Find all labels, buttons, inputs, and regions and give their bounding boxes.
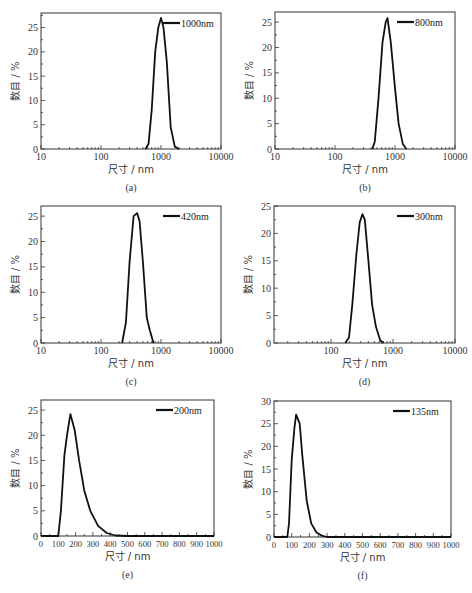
x-tick-label: 900 <box>190 539 203 549</box>
panel-caption: (c) <box>125 376 136 388</box>
x-tick-label: 100 <box>52 539 65 549</box>
x-tick-label: 500 <box>121 539 134 549</box>
y-tick-label: 5 <box>33 119 38 130</box>
x-axis-label: 尺寸 / nm <box>105 550 151 562</box>
data-line-300nm <box>345 214 383 343</box>
x-axis-label: 尺寸 / nm <box>108 357 154 369</box>
figure-canvas: 051015202510100100010000尺寸 / nm数目 / %(a)… <box>0 0 472 593</box>
x-tick-label: 10000 <box>443 151 468 162</box>
x-tick-label: 10000 <box>443 345 468 356</box>
plot-frame <box>275 12 455 149</box>
y-tick-label: 15 <box>261 464 271 475</box>
panel-caption: (e) <box>122 569 133 581</box>
x-tick-label: 10000 <box>209 151 234 162</box>
y-tick-label: 0 <box>266 338 271 349</box>
y-axis-label: 数目 / % <box>242 255 254 294</box>
y-tick-label: 25 <box>28 211 38 222</box>
y-tick-label: 20 <box>28 236 38 247</box>
y-tick-label: 5 <box>266 310 271 321</box>
data-line-420nm <box>122 213 153 343</box>
x-tick-label: 100 <box>328 151 343 162</box>
x-tick-label: 10 <box>36 345 46 356</box>
plot-frame <box>41 400 214 536</box>
y-tick-label: 5 <box>267 118 272 129</box>
x-tick-label: 10 <box>36 151 46 162</box>
chart-panel-d: 0510152025100100010000尺寸 / nm数目 / %(d)30… <box>242 201 468 389</box>
x-tick-label: 10000 <box>209 345 234 356</box>
y-tick-label: 25 <box>262 17 272 28</box>
y-tick-label: 0 <box>266 532 271 543</box>
y-tick-label: 5 <box>33 505 38 516</box>
y-axis-label: 数目 / % <box>9 255 21 294</box>
legend-label: 300nm <box>415 211 443 222</box>
x-tick-label: 0 <box>272 540 276 550</box>
y-tick-label: 0 <box>33 531 38 542</box>
y-tick-label: 5 <box>266 509 271 520</box>
y-tick-label: 20 <box>262 42 272 53</box>
y-tick-label: 20 <box>28 46 38 57</box>
x-tick-label: 100 <box>324 345 339 356</box>
x-tick-label: 400 <box>338 540 351 550</box>
x-tick-label: 200 <box>69 539 82 549</box>
x-tick-label: 1000 <box>383 345 403 356</box>
panel-caption: (f) <box>358 570 368 582</box>
x-tick-label: 700 <box>156 539 169 549</box>
chart-panel-c: 051015202510100100010000尺寸 / nm数目 / %(c)… <box>9 206 234 388</box>
x-tick-label: 200 <box>303 540 316 550</box>
x-tick-label: 300 <box>86 539 99 549</box>
y-tick-label: 10 <box>261 486 271 497</box>
x-tick-label: 700 <box>391 540 404 550</box>
y-tick-label: 20 <box>28 430 38 441</box>
x-axis-label: 尺寸 / nm <box>342 357 388 369</box>
y-tick-label: 15 <box>261 255 271 266</box>
y-axis-label: 数目 / % <box>9 61 21 100</box>
data-line-135nm <box>274 415 451 537</box>
panel-caption: (a) <box>125 182 136 194</box>
chart-panel-a: 051015202510100100010000尺寸 / nm数目 / %(a)… <box>9 13 234 194</box>
panel-caption: (b) <box>359 182 371 194</box>
y-axis-label: 数目 / % <box>9 448 21 487</box>
x-tick-label: 800 <box>409 540 422 550</box>
y-tick-label: 25 <box>261 201 271 212</box>
x-tick-label: 10 <box>270 151 280 162</box>
y-tick-label: 25 <box>28 405 38 416</box>
chart-panel-b: 051015202510100100010000尺寸 / nm数目 / %(b)… <box>243 12 468 194</box>
data-line-200nm <box>41 414 214 536</box>
y-axis-label: 数目 / % <box>242 449 254 488</box>
y-tick-label: 20 <box>261 228 271 239</box>
y-tick-label: 25 <box>261 418 271 429</box>
panel-caption: (d) <box>359 376 371 388</box>
y-tick-label: 5 <box>33 312 38 323</box>
x-tick-label: 100 <box>285 540 298 550</box>
data-line-800nm <box>372 18 406 149</box>
x-axis-label: 尺寸 / nm <box>340 551 386 563</box>
y-tick-label: 30 <box>261 396 271 407</box>
legend-label: 800nm <box>415 17 443 28</box>
legend-label: 200nm <box>174 405 202 416</box>
y-tick-label: 20 <box>261 441 271 452</box>
x-axis-label: 尺寸 / nm <box>108 163 154 175</box>
data-line-1000nm <box>145 18 179 149</box>
plot-frame <box>41 13 221 149</box>
x-tick-label: 100 <box>94 151 109 162</box>
y-tick-label: 10 <box>262 93 272 104</box>
y-tick-label: 15 <box>262 67 272 78</box>
x-tick-label: 1000 <box>442 540 459 550</box>
y-tick-label: 25 <box>28 22 38 33</box>
x-tick-label: 300 <box>321 540 334 550</box>
x-tick-label: 600 <box>138 539 151 549</box>
y-tick-label: 15 <box>28 455 38 466</box>
y-tick-label: 10 <box>28 480 38 491</box>
chart-panel-e: 0510152025010020030040050060070080090010… <box>9 400 223 581</box>
y-tick-label: 15 <box>28 261 38 272</box>
x-tick-label: 1000 <box>151 345 171 356</box>
x-tick-label: 1000 <box>205 539 222 549</box>
x-tick-label: 600 <box>374 540 387 550</box>
x-tick-label: 500 <box>356 540 369 550</box>
x-tick-label: 100 <box>94 345 109 356</box>
legend-label: 1000nm <box>181 18 214 29</box>
x-tick-label: 400 <box>104 539 117 549</box>
y-axis-label: 数目 / % <box>243 61 255 100</box>
x-axis-label: 尺寸 / nm <box>342 163 388 175</box>
plot-frame <box>41 206 221 343</box>
